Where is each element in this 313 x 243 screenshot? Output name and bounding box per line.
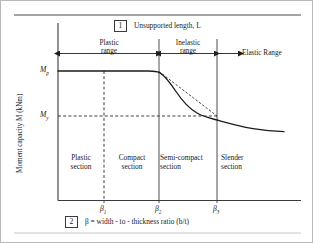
figure-container: Moment capacity M (kNm) Mp My β1 β2 β3 1… bbox=[0, 0, 313, 243]
section-semi-compact-line1: Semi-compact bbox=[160, 153, 218, 162]
x-tick-beta3: β3 bbox=[213, 204, 219, 215]
section-slender-line1: Slender bbox=[221, 153, 277, 162]
range-plastic-label: Plastic range bbox=[80, 39, 138, 56]
section-compact-line2: section bbox=[104, 162, 160, 171]
section-compact-line1: Compact bbox=[104, 153, 160, 162]
y-tick-mp: Mp bbox=[40, 65, 49, 76]
callout-1-box: 1 bbox=[114, 20, 127, 32]
x-tick-beta3-sub: 3 bbox=[217, 209, 220, 215]
section-slender-line2: section bbox=[221, 162, 277, 171]
y-tick-mp-sub: p bbox=[46, 70, 49, 76]
section-plastic-line2: section bbox=[53, 162, 109, 171]
x-tick-beta1-sub: 1 bbox=[104, 209, 107, 215]
range-elastic-label: Elastic Range bbox=[242, 49, 302, 57]
section-plastic-label: Plastic section bbox=[53, 153, 109, 171]
section-plastic-line1: Plastic bbox=[53, 153, 109, 162]
x-tick-beta2-sub: 2 bbox=[159, 209, 162, 215]
y-tick-my: My bbox=[40, 110, 49, 121]
linear-transition-chord bbox=[159, 72, 217, 117]
section-semi-compact-line2: section bbox=[160, 162, 218, 171]
unsupported-length-label: Unsupported length, L bbox=[134, 22, 201, 31]
x-tick-beta1: β1 bbox=[100, 204, 106, 215]
y-axis-label: Moment capacity M (kNm) bbox=[16, 68, 25, 198]
section-slender-label: Slender section bbox=[221, 153, 277, 171]
range-elastic-line1: Elastic Range bbox=[242, 49, 302, 57]
callout-2-box: 2 bbox=[65, 216, 78, 228]
range-inelastic-line1: Inelastic bbox=[162, 39, 214, 47]
y-tick-my-sub: y bbox=[46, 115, 48, 121]
section-semi-compact-label: Semi-compact section bbox=[160, 153, 218, 171]
range-inelastic-label: Inelastic range bbox=[162, 39, 214, 56]
range-inelastic-line2: range bbox=[162, 47, 214, 55]
range-plastic-line2: range bbox=[80, 47, 138, 55]
x-tick-beta2: β2 bbox=[155, 204, 161, 215]
beta-definition-label: β = width - to - thickness ratio (b/t) bbox=[85, 218, 189, 227]
moment-capacity-curve bbox=[58, 71, 284, 132]
range-plastic-line1: Plastic bbox=[80, 39, 138, 47]
section-compact-label: Compact section bbox=[104, 153, 160, 171]
